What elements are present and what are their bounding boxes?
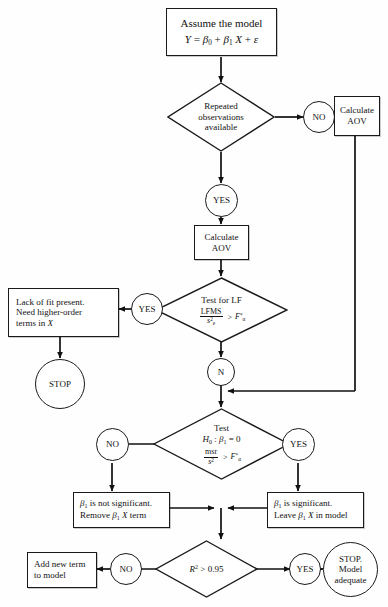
test-lf-rhs-sub: α (243, 316, 246, 322)
test-slope-rhs-sub: α (238, 456, 241, 462)
repeated-obs-line1: Repeated (198, 101, 244, 112)
r-squared-label: R2 > 0.95 (190, 564, 224, 575)
eq-epsilon: ε (254, 33, 258, 45)
no-2-label: NO (106, 439, 119, 450)
test-lf-formula: LFMS s2e > F*α (198, 308, 246, 327)
not-significant-line1: β1 is not significant. (80, 498, 152, 510)
not-significant-line2-post: term (127, 510, 146, 520)
eq-equals: = (191, 33, 203, 45)
node-repeated-observations[interactable]: Repeated observations available (167, 82, 275, 152)
node-calculate-aov-right[interactable]: Calculate AOV (334, 96, 380, 136)
node-yes-branch-4[interactable]: YES (289, 553, 321, 585)
eq-plus1: + (212, 33, 224, 45)
assume-model-equation: Y = β0 + β1 X + ε (185, 33, 258, 48)
node-no-branch-1[interactable]: NO (303, 101, 335, 133)
lack-of-fit-line3-pre: terms in (16, 318, 48, 328)
node-no-branch-2[interactable]: NO (96, 428, 129, 461)
r-squared-operator: > (198, 564, 208, 574)
node-significant[interactable]: β1 is significant. Leave β1 X in model (267, 492, 364, 528)
assume-model-line1: Assume the model (181, 17, 263, 30)
test-slope-label: Test H0 : β1 = 0 msr s2 > F*α (202, 422, 241, 467)
significant-rest: is significant. (281, 498, 332, 508)
node-calculate-aov-center[interactable]: Calculate AOV (194, 225, 249, 260)
node-no-branch-3[interactable]: NO (110, 553, 142, 585)
node-yes-branch-1[interactable]: YES (205, 184, 238, 217)
significant-line2-post: in model (313, 510, 347, 520)
significant-line2-pre: Leave (274, 510, 298, 520)
test-lf-den-sub: e (213, 320, 215, 326)
stop-adequate-line1: STOP. (339, 554, 362, 565)
calc-aov-center-line1: Calculate (205, 232, 239, 243)
test-slope-rhs: F*α (231, 452, 241, 462)
test-lf-label: Test for LF LFMS s2e > F*α (198, 293, 246, 327)
node-stop-model-adequate[interactable]: STOP. Model adequate (323, 542, 378, 597)
no-3-label: NO (120, 564, 133, 575)
not-significant-line2: Remove β1 X term (80, 510, 146, 522)
lack-of-fit-line2: Need higher-order (16, 307, 82, 318)
test-slope-colon: : (212, 434, 219, 444)
stop-adequate-line2: Model (339, 564, 363, 575)
node-test-lack-of-fit[interactable]: Test for LF LFMS s2e > F*α (155, 277, 288, 343)
eq-plus2: + (242, 33, 254, 45)
test-slope-line1: Test (202, 423, 241, 434)
node-test-slope[interactable]: Test H0 : β1 = 0 msr s2 > F*α (153, 408, 290, 480)
no-1-label: NO (313, 112, 326, 123)
n-node-label: N (218, 367, 225, 378)
flowchart-canvas: Assume the model Y = β0 + β1 X + ε Repea… (0, 0, 388, 607)
not-significant-rest: is not significant. (87, 498, 152, 508)
stop-1-label: STOP (49, 379, 71, 390)
yes-1-label: YES (213, 195, 230, 206)
node-stop-1[interactable]: STOP (35, 359, 85, 409)
not-significant-line2-pre: Remove (80, 510, 112, 520)
repeated-obs-line3: available (198, 122, 244, 133)
test-lf-operator: > (228, 313, 233, 323)
significant-line1: β1 is significant. (274, 498, 332, 510)
node-r-squared-test[interactable]: R2 > 0.95 (155, 540, 258, 598)
test-slope-eq: = 0 (226, 434, 240, 444)
lack-of-fit-line1: Lack of fit present. (16, 297, 84, 308)
test-slope-fraction: msr s2 (204, 448, 218, 466)
test-slope-formula: msr s2 > F*α (202, 448, 241, 466)
add-new-term-line2: to model (34, 570, 66, 581)
calc-aov-center-line2: AOV (212, 243, 232, 254)
lack-of-fit-line3-math: X (48, 318, 54, 328)
eq-x: X (233, 33, 242, 45)
test-lf-rhs: F*α (235, 312, 245, 322)
stop-adequate-line3: adequate (335, 575, 367, 586)
significant-line2: Leave β1 X in model (274, 510, 347, 522)
add-new-term-line1: Add new term (34, 559, 86, 570)
calc-aov-right-line2: AOV (347, 116, 367, 127)
test-slope-den-sup: 2 (211, 457, 214, 463)
node-not-significant[interactable]: β1 is not significant. Remove β1 X term (73, 492, 170, 528)
yes-4-label: YES (296, 564, 313, 575)
node-lack-of-fit[interactable]: Lack of fit present. Need higher-order t… (8, 288, 119, 337)
node-add-new-term[interactable]: Add new term to model (27, 552, 97, 588)
test-slope-denominator: s2 (207, 458, 215, 467)
test-slope-operator: > (223, 453, 228, 463)
test-lf-denominator: s2e (206, 317, 216, 326)
node-n-connector[interactable]: N (207, 358, 235, 386)
yes-2-label: YES (138, 304, 155, 315)
r-squared-value: 0.95 (208, 564, 224, 574)
test-slope-hypothesis: H0 : β1 = 0 (202, 434, 241, 446)
calc-aov-right-line1: Calculate (340, 105, 374, 116)
node-yes-branch-2[interactable]: YES (131, 293, 163, 325)
lack-of-fit-line3: terms in X (16, 318, 53, 329)
node-yes-branch-3[interactable]: YES (282, 428, 315, 461)
repeated-observations-label: Repeated observations available (198, 101, 244, 133)
yes-3-label: YES (290, 439, 307, 450)
test-lf-fraction: LFMS s2e (200, 308, 223, 327)
test-lf-line1: Test for LF (198, 295, 246, 306)
node-assume-model[interactable]: Assume the model Y = β0 + β1 X + ε (166, 8, 277, 56)
repeated-obs-line2: observations (198, 112, 244, 123)
